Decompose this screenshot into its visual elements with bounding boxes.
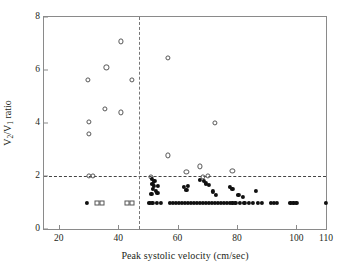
plot-area: 02468 20406080100110 [43,16,327,230]
x-tick-mark [178,225,179,229]
data-point-open-square [130,200,135,205]
data-point-open-circle [104,65,109,70]
y-tick-mark [44,176,48,177]
data-point-filled-circle [254,188,258,192]
x-tick-mark [59,225,60,229]
data-point-filled-circle [159,200,163,204]
x-tick-label: 20 [54,234,64,244]
x-tick-label: 60 [173,234,183,244]
data-point-open-circle [129,77,134,82]
data-point-open-square [99,200,104,205]
y-tick-label: 2 [35,171,40,181]
data-point-open-circle [165,153,170,158]
data-point-filled-circle [294,200,298,204]
x-tick-label: 40 [113,234,123,244]
data-point-open-circle [119,110,124,115]
x-tick-label: 80 [232,234,242,244]
data-point-open-circle [102,107,107,112]
data-point-filled-circle [324,200,328,204]
data-point-open-circle [212,120,217,125]
data-point-open-circle [197,164,202,169]
scatter-plot-figure: 02468 20406080100110 V2/V1 ratio Peak sy… [0,0,350,278]
y-tick-mark [44,17,48,18]
velocity-threshold-line [139,17,140,229]
data-point-filled-circle [155,191,159,195]
data-point-open-circle [230,169,235,174]
data-point-open-circle [90,173,95,178]
x-tick-mark [296,225,297,229]
data-point-filled-circle [230,187,234,191]
data-point-open-circle [87,120,92,125]
data-point-filled-circle [241,195,245,199]
data-point-open-circle [206,173,211,178]
y-tick-label: 4 [35,118,40,128]
y-tick-mark [44,70,48,71]
y-tick-label: 6 [35,65,40,75]
data-point-filled-circle [85,200,89,204]
data-point-filled-circle [207,183,211,187]
y-tick-mark [44,123,48,124]
y-tick-mark [44,229,48,230]
data-point-filled-circle [260,200,264,204]
x-tick-mark [326,225,327,229]
data-point-filled-circle [149,192,153,196]
x-tick-label: 100 [289,234,303,244]
x-tick-mark [118,225,119,229]
x-tick-mark [237,225,238,229]
data-point-open-circle [118,39,123,44]
x-axis-label: Peak systolic velocity (cm/sec) [43,250,327,261]
data-point-filled-circle [184,188,188,192]
data-point-filled-circle [214,192,218,196]
y-tick-label: 8 [35,12,40,22]
data-point-filled-circle [156,184,160,188]
data-point-open-circle [85,77,90,82]
data-point-open-circle [87,131,92,136]
data-point-filled-circle [275,200,279,204]
x-tick-label: 110 [319,234,333,244]
data-point-open-circle [184,169,189,174]
data-point-open-circle [165,55,170,60]
y-tick-label: 0 [35,224,40,234]
y-axis-label: V2/V1 ratio [2,100,15,146]
